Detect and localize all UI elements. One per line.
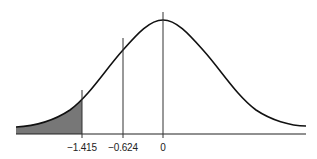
shaded-tail-region (16, 99, 82, 134)
normal-curve (16, 20, 306, 127)
tick-label-neg-1-415: −1.415 (67, 142, 97, 153)
normal-curve-chart (0, 0, 317, 159)
tick-label-neg-0-624: −0.624 (108, 142, 138, 153)
tick-label-zero: 0 (160, 142, 165, 153)
